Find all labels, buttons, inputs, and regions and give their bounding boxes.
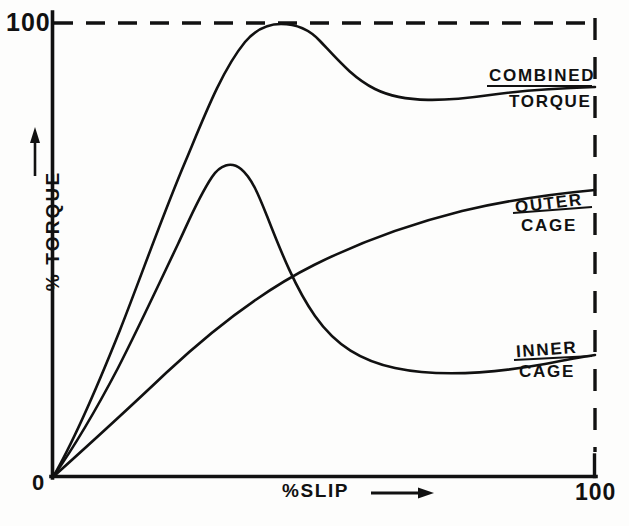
origin-tick-label: 0 <box>32 470 45 496</box>
x-axis-title: %SLIP <box>282 480 349 502</box>
y-axis-arrow-icon <box>30 127 40 176</box>
series-label-inner-cage-line1: INNER <box>515 338 578 362</box>
y-axis-tick-label-100: 100 <box>6 8 51 37</box>
series-label-combined-torque-line1: COMBINED <box>489 66 595 86</box>
x-axis-arrow-icon <box>371 488 434 499</box>
curve-inner-cage <box>53 165 595 477</box>
torque-slip-chart-figure: 100 0 100 % TORQUE %SLIP COMBINED TORQUE… <box>0 0 629 526</box>
series-label-combined-torque-line2: TORQUE <box>509 92 592 112</box>
series-label-outer-cage-line2: CAGE <box>521 216 577 236</box>
y-axis-title: % TORQUE <box>42 171 64 292</box>
x-axis-tick-label-100: 100 <box>575 479 616 506</box>
series-label-inner-cage-line2: CAGE <box>519 362 575 382</box>
